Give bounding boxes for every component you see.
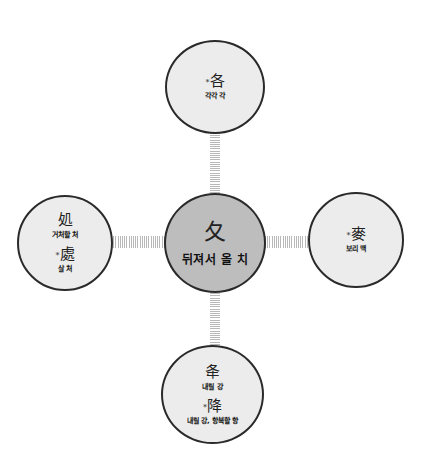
hanja-char: 處 [60,245,75,263]
hanja-char: 降 [207,397,222,415]
hanja-label: 処 [58,212,73,229]
meaning-label: 거처할 처 [52,230,78,240]
meaning-label: 내릴 강 [202,382,222,392]
node-right: *麥 보리 맥 [308,192,404,288]
hanja-char: 夅 [205,363,220,381]
hanja-char: 処 [58,211,73,229]
hanja-char: 麥 [351,225,366,243]
variant-marker: * [347,231,351,240]
meaning-label: 뒤져서 올 치 [182,253,249,268]
variant-marker: * [56,251,60,260]
meaning-label: 보리 맥 [346,244,366,254]
hanja-label: *降 [203,398,222,415]
variant-marker: * [206,78,210,87]
node-left: 処 거처할 처 *處 살 처 [17,195,113,291]
node-center: 夂 뒤져서 올 치 [164,193,266,293]
meaning-label: 각각 각 [205,91,225,101]
meaning-label: 내릴 강, 항복할 항 [187,416,239,426]
node-bottom: 夅 내릴 강 *降 내릴 강, 항복할 항 [161,345,264,444]
connector-right [265,236,309,248]
variant-marker: * [203,403,207,412]
meaning-label: 살 처 [58,264,72,274]
connector-left [111,236,165,248]
node-top: *各 각각 각 [165,40,265,134]
hanja-label: *各 [206,73,225,90]
connector-top [210,133,220,194]
hanja-char: 各 [210,72,225,90]
hanja-label: *處 [56,246,75,263]
hanja-label: 夅 [205,364,220,381]
hanja-char: 夂 [204,219,226,245]
connector-bottom [210,291,220,346]
hanja-label: *麥 [347,226,366,243]
